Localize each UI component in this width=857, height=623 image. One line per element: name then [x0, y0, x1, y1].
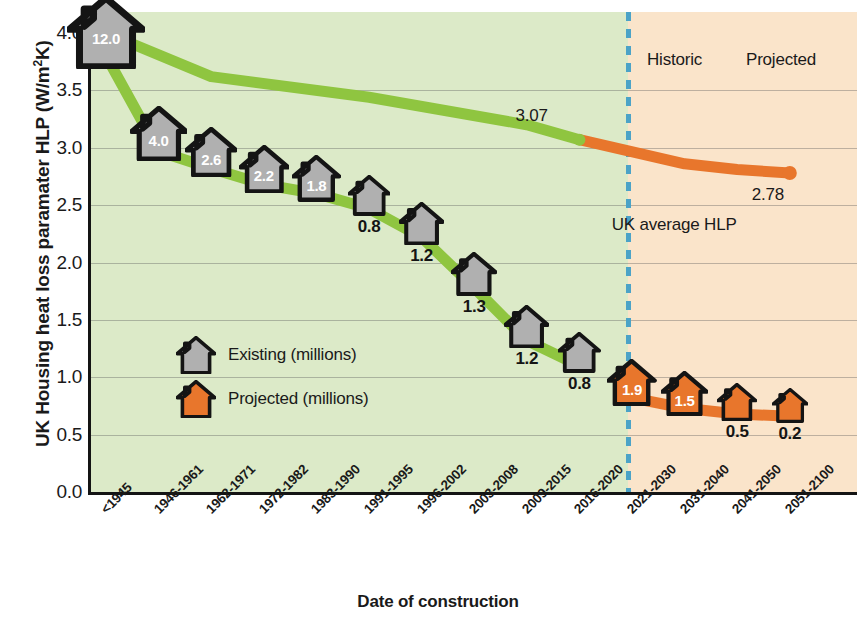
- house-marker-1962-1971: 2.6: [185, 127, 237, 177]
- house-marker-1972-1982: 2.2: [239, 145, 290, 194]
- house-marker-1991-1995: 0.8: [348, 175, 390, 216]
- house-value-label: 1.2: [381, 246, 462, 266]
- house-icon: [176, 336, 216, 374]
- house-marker-<1945: 12.0: [67, 0, 145, 69]
- house-marker-2051-2100: 0.2: [772, 388, 808, 423]
- y-tick-2.0: 2.0: [36, 252, 82, 274]
- house-value-label: 1.3: [433, 297, 515, 317]
- y-tick-0.5: 0.5: [36, 424, 82, 446]
- house-value-label: 4.0: [130, 132, 188, 149]
- y-tick-2.5: 2.5: [36, 194, 82, 216]
- house-value-label: 1.8: [292, 177, 341, 194]
- house-value-label: 12.0: [67, 30, 145, 47]
- house-marker-2021-2030: 1.9: [607, 359, 656, 406]
- house-icon: [399, 202, 444, 245]
- house-marker-2031-2040: 1.5: [661, 371, 708, 416]
- y-tick-3.5: 3.5: [36, 79, 82, 101]
- y-tick-1.0: 1.0: [36, 366, 82, 388]
- house-icon: [717, 383, 757, 421]
- house-marker-2041-2050: 0.5: [717, 383, 757, 421]
- legend-item-label: Existing (millions): [228, 345, 356, 365]
- house-value-label: 0.2: [754, 424, 826, 444]
- zone-label-projected: Projected: [746, 50, 816, 70]
- house-marker-1983-1990: 1.8: [292, 155, 341, 202]
- house-marker-1946-1961: 4.0: [130, 106, 188, 161]
- legend-item-label: Projected (millions): [228, 389, 369, 409]
- annotation-end-value: 2.78: [752, 185, 784, 205]
- y-axis-tick-labels: 0.00.51.01.52.02.53.03.54.0: [20, 0, 82, 623]
- historic-zone-background: [91, 12, 628, 492]
- house-icon: [772, 388, 808, 423]
- y-tick-0.0: 0.0: [36, 481, 82, 503]
- annotation-junction-value: 3.07: [515, 106, 547, 126]
- historic-projected-divider: [626, 12, 631, 492]
- house-value-label: 2.6: [185, 151, 237, 168]
- annotation-uk-average-caption: UK average HLP: [612, 215, 737, 235]
- house-value-label: 1.5: [661, 392, 708, 409]
- house-value-label: 0.8: [330, 217, 408, 237]
- gridline-1.5: [91, 320, 857, 321]
- house-marker-1996-2002: 1.2: [399, 202, 444, 245]
- house-icon: [348, 175, 390, 216]
- house-icon: [176, 380, 216, 418]
- gridline-2.5: [91, 205, 857, 206]
- house-grey-icon: [176, 336, 216, 378]
- house-value-label: 1.2: [486, 349, 567, 369]
- house-value-label: 2.2: [239, 167, 290, 184]
- house-icon: [504, 305, 549, 348]
- house-orange-icon: [176, 380, 216, 422]
- y-tick-3.0: 3.0: [36, 137, 82, 159]
- house-value-label: 1.9: [607, 381, 656, 398]
- gridline-3.5: [91, 90, 857, 91]
- house-marker-2003-2008: 1.3: [451, 252, 497, 296]
- house-icon: [558, 332, 600, 373]
- zone-label-historic: Historic: [647, 50, 702, 70]
- y-tick-1.5: 1.5: [36, 309, 82, 331]
- house-marker-2009-2015: 1.2: [504, 305, 549, 348]
- house-marker-2016-2020: 0.8: [558, 332, 600, 373]
- x-axis-title: Date of construction: [88, 592, 788, 612]
- house-icon: [451, 252, 497, 296]
